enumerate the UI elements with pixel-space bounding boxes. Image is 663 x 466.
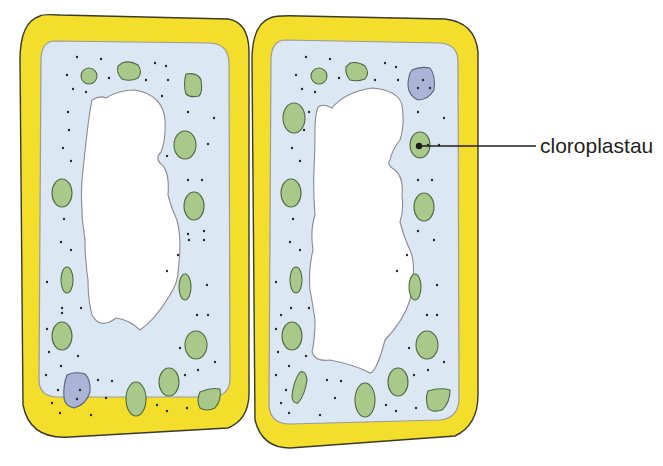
chloroplast	[355, 383, 375, 417]
label-text: cloroplastau	[540, 134, 653, 157]
chloroplast	[52, 322, 72, 350]
chloroplast	[185, 74, 202, 97]
chloroplast	[159, 368, 179, 396]
chloroplast	[52, 179, 72, 207]
left-cell	[20, 15, 249, 438]
chloroplast	[416, 331, 438, 359]
chloroplast	[126, 382, 146, 416]
plant-cell-diagram: cloroplastau	[0, 0, 663, 466]
chloroplast	[414, 193, 434, 221]
chloroplast	[118, 62, 141, 80]
chloroplast	[388, 368, 408, 396]
chloroplast	[283, 103, 305, 133]
chloroplast	[346, 62, 368, 80]
chloroplast	[281, 179, 301, 207]
chloroplast	[61, 267, 73, 293]
chloroplast	[81, 68, 97, 84]
vacuole	[81, 90, 179, 330]
chloroplast	[185, 331, 207, 359]
chloroplast	[174, 131, 196, 159]
chloroplast	[282, 322, 302, 350]
chloroplast	[179, 274, 191, 300]
chloroplast	[311, 68, 327, 84]
chloroplast	[409, 274, 421, 300]
chloroplast	[290, 267, 302, 293]
right-cell	[252, 16, 478, 448]
chloroplast	[184, 192, 204, 220]
nucleus	[408, 67, 435, 100]
